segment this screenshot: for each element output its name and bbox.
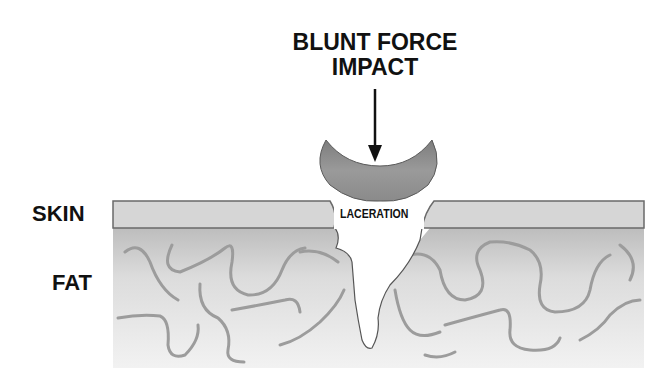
fat-label: FAT bbox=[52, 270, 92, 296]
skin-label: SKIN bbox=[32, 201, 85, 227]
title-line-1: BLUNT FORCE bbox=[0, 30, 669, 55]
force-arrow-icon bbox=[368, 89, 382, 162]
skin-layer-right bbox=[422, 201, 644, 228]
diagram-title: BLUNT FORCE IMPACT bbox=[0, 30, 669, 80]
title-line-2: IMPACT bbox=[0, 55, 669, 80]
laceration-label: LACERATION bbox=[340, 207, 408, 221]
skin-layer-left bbox=[113, 201, 335, 228]
